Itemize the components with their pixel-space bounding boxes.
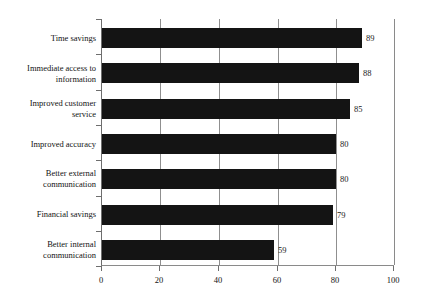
bar-row: 88 — [102, 63, 394, 83]
bar-value-label: 88 — [363, 69, 372, 78]
category-label-line: Better internal — [0, 239, 96, 250]
bar-better-internal-communication: 59 — [102, 240, 274, 260]
category-label-line: Immediate access to — [0, 63, 96, 74]
category-label-immediate-access: Immediate access to information — [0, 63, 96, 84]
x-axis-tick — [277, 266, 278, 271]
category-label-better-internal-communication: Better internal communication — [0, 239, 96, 260]
x-axis-tick — [393, 266, 394, 271]
bar-value-label: 79 — [337, 211, 346, 220]
bar-value-label: 80 — [340, 140, 349, 149]
y-axis-tick — [96, 196, 101, 197]
bar-row: 59 — [102, 240, 394, 260]
bar-better-external-communication: 80 — [102, 169, 336, 189]
category-label-line: Improved accuracy — [0, 139, 96, 150]
bar-value-label: 85 — [354, 105, 363, 114]
bar-immediate-access-to-information: 88 — [102, 63, 359, 83]
y-axis-tick — [96, 19, 101, 20]
x-axis-label-0: 0 — [81, 275, 121, 285]
bar-improved-accuracy: 80 — [102, 134, 336, 154]
category-label-line: Better external — [0, 168, 96, 179]
bar-time-savings: 89 — [102, 28, 362, 48]
bar-row: 85 — [102, 99, 394, 119]
bar-row: 79 — [102, 205, 394, 225]
bar-row: 80 — [102, 134, 394, 154]
bar-financial-savings: 79 — [102, 205, 333, 225]
x-axis-tick — [159, 266, 160, 271]
x-axis-label-40: 40 — [198, 275, 238, 285]
plot-area: 89 88 85 80 80 79 — [101, 19, 394, 266]
x-axis-tick — [101, 266, 102, 271]
category-label-line: service — [0, 109, 96, 120]
bar-chart: Time savings Immediate access to informa… — [0, 0, 421, 302]
bar-row: 80 — [102, 169, 394, 189]
bar-value-label: 80 — [340, 175, 349, 184]
category-label-line: information — [0, 74, 96, 85]
x-axis-label-20: 20 — [139, 275, 179, 285]
bar-row: 89 — [102, 28, 394, 48]
category-label-improved-accuracy: Improved accuracy — [0, 139, 96, 150]
category-label-line: communication — [0, 250, 96, 261]
y-axis-tick — [96, 231, 101, 232]
x-axis-tick — [335, 266, 336, 271]
category-label-line: Improved customer — [0, 98, 96, 109]
x-axis-label-80: 80 — [315, 275, 355, 285]
x-axis-label-100: 100 — [373, 275, 413, 285]
bar-value-label: 59 — [278, 246, 287, 255]
y-axis-tick — [96, 90, 101, 91]
category-label-better-external-communication: Better external communication — [0, 168, 96, 189]
category-label-time-savings: Time savings — [0, 33, 96, 44]
bar-value-label: 89 — [366, 34, 375, 43]
y-axis-tick — [96, 125, 101, 126]
category-label-line: Time savings — [0, 33, 96, 44]
y-axis-tick — [96, 160, 101, 161]
category-label-financial-savings: Financial savings — [0, 209, 96, 220]
y-axis-tick — [96, 54, 101, 55]
category-label-line: Financial savings — [0, 209, 96, 220]
x-axis-label-60: 60 — [257, 275, 297, 285]
category-label-line: communication — [0, 179, 96, 190]
gridline-100 — [394, 19, 395, 265]
x-axis-tick — [218, 266, 219, 271]
bar-improved-customer-service: 85 — [102, 99, 350, 119]
category-label-improved-customer-service: Improved customer service — [0, 98, 96, 119]
